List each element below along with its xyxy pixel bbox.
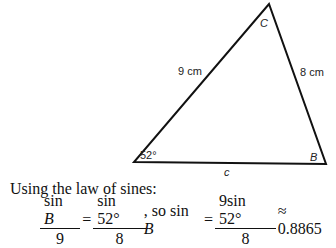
connector-text: , so sin xyxy=(144,202,189,219)
side-bc-label: 8 cm xyxy=(300,67,324,78)
fraction-9sin52-over-8: 9sin 52° 8 xyxy=(217,192,274,248)
law-of-sines-equation: sin B 9 = sin 52° 8 , so sin B = 9sin 52… xyxy=(40,200,336,240)
fraction-sinb-over-9: sin B 9 xyxy=(42,192,78,248)
equals-sign: = xyxy=(82,211,91,229)
numerator-sin52: sin 52° xyxy=(95,192,144,228)
var-b-2: B xyxy=(144,220,154,237)
numerator-9sin52: 9sin 52° xyxy=(217,192,274,228)
denominator-8: 8 xyxy=(93,228,146,248)
equals-sign-2: = xyxy=(204,211,213,229)
triangle-figure xyxy=(0,0,336,180)
triangle-abc xyxy=(134,4,326,164)
denominator-8-2: 8 xyxy=(215,228,276,248)
sin-text: sin xyxy=(44,192,63,209)
vertex-c-label: C xyxy=(260,18,268,29)
side-ac-label: 9 cm xyxy=(178,66,202,77)
vertex-b-label: B xyxy=(310,152,317,163)
approx-result: ≈ 0.8865 xyxy=(278,202,334,238)
denominator-9: 9 xyxy=(40,228,80,248)
fraction-sin52-over-8: sin 52° 8 xyxy=(95,192,144,248)
angle-a-label: 52° xyxy=(140,150,157,161)
side-ab-label: c xyxy=(224,167,230,178)
var-b: B xyxy=(44,210,54,227)
